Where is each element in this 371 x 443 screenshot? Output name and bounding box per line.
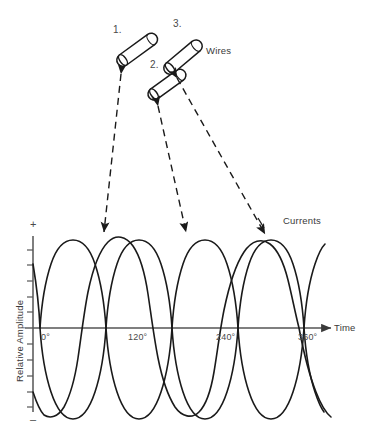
y-axis-plus-label: +	[30, 218, 37, 230]
currents-label: Currents	[283, 215, 321, 226]
three-phase-current-diagram: 1. 2. 3. Wires Currents + – Relative Amp…	[0, 0, 371, 443]
y-axis	[25, 236, 33, 412]
wire-1-label: 1.	[113, 24, 122, 35]
connector-arrow-wire1-to-peak1	[104, 74, 121, 232]
y-axis-title: Relative Amplitude	[14, 300, 25, 382]
x-tick-label-360: 360°	[298, 332, 317, 342]
connector-arrow-wire3-to-peak3	[177, 78, 265, 234]
y-axis-minus-label: –	[30, 413, 36, 425]
wires-label: Wires	[206, 45, 231, 56]
connector-arrow-wire2-to-peak2	[158, 106, 186, 232]
x-axis-title: Time	[334, 322, 356, 333]
current-waveform-phase-1	[33, 240, 324, 419]
wire-2-label: 2.	[150, 59, 159, 70]
x-tick-label-120: 120°	[128, 332, 147, 342]
x-tick-label-0: 0°	[41, 332, 50, 342]
x-tick-label-240: 240°	[216, 332, 235, 342]
wire-3-label: 3.	[173, 18, 182, 29]
